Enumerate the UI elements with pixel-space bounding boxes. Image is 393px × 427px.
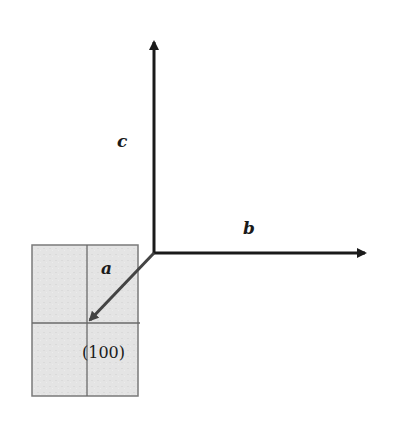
b-axis-label: b <box>243 218 255 238</box>
a-axis-label: a <box>101 258 112 278</box>
figure-caption <box>60 418 320 427</box>
c-axis-label: c <box>117 131 127 151</box>
plane-label: (100) <box>82 343 125 362</box>
diagram-canvas: c b a (100) <box>0 0 393 427</box>
plane-100 <box>32 245 140 396</box>
diagram-graphics <box>0 0 393 427</box>
